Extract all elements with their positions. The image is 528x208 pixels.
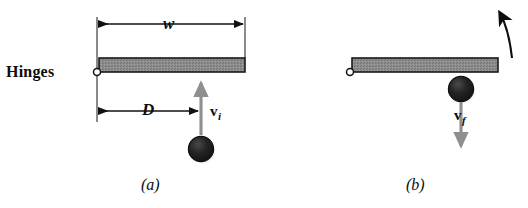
physics-figure: Hinges w D vi (a) vf (b)	[0, 0, 528, 208]
panel-a-graphics	[94, 17, 246, 164]
hinge-pivot	[347, 69, 354, 76]
velocity-final-subscript: f	[462, 114, 466, 126]
velocity-final-symbol: v	[454, 107, 462, 123]
ball-projectile	[448, 76, 475, 103]
panel-b-caption: (b)	[406, 177, 425, 193]
ball-projectile	[188, 136, 215, 163]
door-plank	[352, 58, 498, 72]
velocity-initial-label: vi	[210, 104, 221, 122]
velocity-initial-subscript: i	[218, 110, 221, 122]
velocity-initial-symbol: v	[210, 103, 218, 119]
width-label: w	[163, 15, 174, 32]
hinge-pivot	[94, 69, 101, 76]
velocity-final-label: vf	[454, 108, 466, 126]
figure-graphics	[0, 0, 528, 208]
door-plank	[99, 58, 245, 72]
panel-b-graphics	[347, 13, 513, 146]
distance-label: D	[142, 101, 154, 118]
hinges-label: Hinges	[6, 64, 54, 80]
panel-a-caption: (a)	[141, 177, 160, 193]
rotation-arrow	[500, 13, 512, 58]
